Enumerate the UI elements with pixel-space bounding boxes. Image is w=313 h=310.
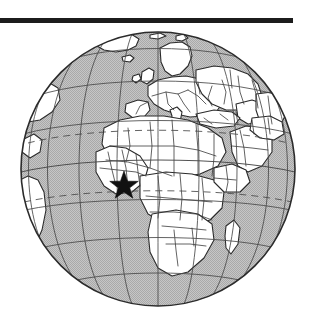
globe-svg — [0, 0, 313, 310]
globe-graphic — [0, 0, 313, 310]
locator-map-figure: World locator globe West Africa orthogra… — [0, 0, 313, 310]
